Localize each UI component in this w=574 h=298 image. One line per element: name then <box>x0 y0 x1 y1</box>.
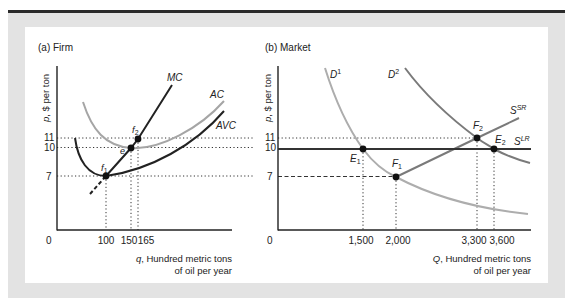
point-e <box>128 145 135 152</box>
market-origin: 0 <box>267 235 273 246</box>
label-f1: f1 <box>101 162 108 174</box>
market-guides <box>278 138 494 230</box>
short-run-supply-curve <box>396 118 519 177</box>
market-xtick-1500: 1,500 <box>348 235 373 246</box>
market-x-axis-label-line2: of oil per year <box>473 265 531 276</box>
label-f2: f2 <box>132 124 139 136</box>
market-chart: (b) Market p, $ per ton E1 <box>262 42 531 276</box>
firm-xtick-165: 165 <box>138 235 155 246</box>
label-e1: E1 <box>350 153 361 165</box>
market-ytick-10: 10 <box>265 142 277 153</box>
point-f2 <box>135 136 142 143</box>
point-e2 <box>491 146 498 153</box>
market-y-axis-label: p, $ per ton <box>262 74 273 123</box>
firm-title: (a) Firm <box>38 42 73 53</box>
label-f1-market: F1 <box>392 158 402 170</box>
firm-y-axis-label: p, $ per ton <box>40 74 51 123</box>
label-s-lr: SLR <box>514 135 530 147</box>
point-f2-market <box>474 135 481 142</box>
label-avc: AVC <box>215 120 237 131</box>
label-mc: MC <box>167 72 183 83</box>
point-e1 <box>360 146 367 153</box>
label-e: e <box>120 146 125 156</box>
point-f1-market <box>393 174 400 181</box>
mc-curve <box>106 85 172 176</box>
label-s-sr: SSR <box>510 104 526 116</box>
firm-xtick-150: 150 <box>121 235 138 246</box>
firm-xtick-100: 100 <box>98 235 115 246</box>
firm-x-axis-label-line2: of oil per year <box>174 265 232 276</box>
market-ytick-7: 7 <box>267 171 273 182</box>
label-d2: D2 <box>388 68 399 80</box>
market-x-axis-label-line1: Q, Hundred metric tons <box>433 253 531 264</box>
market-xtick-2000: 2,000 <box>385 235 410 246</box>
firm-ytick-7: 7 <box>46 171 52 182</box>
market-xtick-3600: 3,600 <box>489 235 514 246</box>
mc-dashed-extension <box>90 176 106 194</box>
label-e2: E2 <box>495 134 506 146</box>
chart-canvas: (a) Firm p, $ per ton f1 e <box>0 0 574 298</box>
ac-curve <box>83 101 224 148</box>
firm-ytick-10: 10 <box>44 142 56 153</box>
firm-guides <box>57 138 255 230</box>
label-d1: D1 <box>330 68 341 80</box>
market-title: (b) Market <box>265 42 311 53</box>
firm-x-axis-label-line1: q, Hundred metric tons <box>136 253 232 264</box>
label-f2-market: F2 <box>473 120 483 132</box>
label-ac: AC <box>209 89 225 100</box>
firm-chart: (a) Firm p, $ per ton f1 e <box>38 42 255 276</box>
firm-origin: 0 <box>46 235 52 246</box>
market-xtick-3300: 3,300 <box>461 235 486 246</box>
